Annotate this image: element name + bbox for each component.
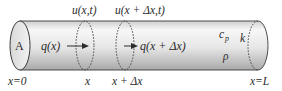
- position-label-x: x: [84, 75, 91, 87]
- area-label: A: [15, 39, 24, 53]
- temperature-label-x-plus-dx: u(x + Δx,t): [115, 4, 165, 17]
- flux-label-out: q(x + Δx): [140, 39, 186, 53]
- position-label-x0: x=0: [7, 75, 27, 87]
- flux-label-in: q(x): [41, 39, 60, 53]
- specific-heat-symbol: c: [219, 28, 224, 40]
- position-label-xL: x=L: [249, 75, 269, 87]
- density-label: ρ: [222, 50, 229, 63]
- temperature-label-x: u(x,t): [72, 4, 97, 17]
- position-label-x-plus-dx: x + Δx: [111, 75, 143, 87]
- specific-heat-subscript: p: [224, 34, 229, 43]
- rod-diagram: A q(x) q(x + Δx) u(x,t) u(x + Δx,t) c p …: [0, 0, 282, 91]
- conductivity-label: k: [240, 32, 246, 44]
